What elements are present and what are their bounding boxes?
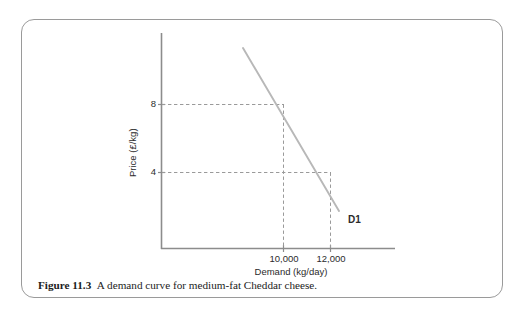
demand-curve-line-d1 [243, 48, 339, 211]
x-axis-title: Demand (kg/day) [225, 266, 357, 277]
y-tick-label-4: 4 [143, 166, 156, 177]
x-tick-label-10000: 10,000 [258, 253, 310, 264]
figure-caption-text: A demand curve for medium-fat Cheddar ch… [97, 279, 317, 291]
curve-label-d1: D1 [348, 214, 361, 225]
figure-caption-label: Figure 11.3 [38, 279, 91, 291]
figure-caption: Figure 11.3 A demand curve for medium-fa… [38, 279, 468, 291]
y-axis-title: Price (£/kg) [127, 128, 138, 177]
y-tick-label-8: 8 [143, 98, 156, 109]
x-tick-label-12000: 12,000 [305, 253, 357, 264]
chart-figure: 8 4 10,000 12,000 Demand (kg/day) Price … [0, 0, 527, 315]
figure-screenshot: 8 4 10,000 12,000 Demand (kg/day) Price … [0, 0, 527, 315]
